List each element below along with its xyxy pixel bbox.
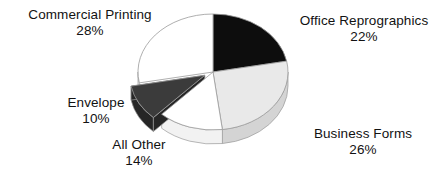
slice-label-commercial-printing: Commercial Printing 28%	[6, 7, 174, 40]
slice-label-percent: 14%	[78, 153, 200, 169]
pie-slice-business-forms	[213, 61, 288, 129]
slice-label-all-other: All Other 14%	[78, 137, 200, 170]
slice-label-office-reprographics: Office Reprographics 22%	[288, 13, 440, 46]
slice-label-percent: 22%	[288, 29, 440, 45]
slice-label-percent: 26%	[288, 142, 438, 158]
slice-label-name: Business Forms	[288, 126, 438, 142]
slice-label-percent: 28%	[6, 23, 174, 39]
slice-label-envelope: Envelope 10%	[41, 95, 151, 128]
slice-label-percent: 10%	[41, 111, 151, 127]
slice-label-name: Envelope	[41, 95, 151, 111]
slice-label-name: All Other	[78, 137, 200, 153]
slice-label-name: Office Reprographics	[288, 13, 440, 29]
pie-chart: Commercial Printing 28% Office Reprograp…	[0, 0, 443, 182]
slice-label-name: Commercial Printing	[6, 7, 174, 23]
slice-label-business-forms: Business Forms 26%	[288, 126, 438, 159]
